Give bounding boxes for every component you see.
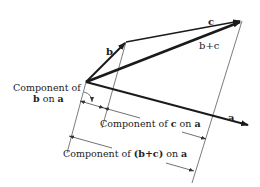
label-component-bc-prefix: Component of — [63, 148, 134, 159]
label-component-bc-vec: (b+c) — [134, 148, 163, 159]
label-component-of-b-line1: Component of — [13, 82, 82, 93]
dimension-line-component-c-start — [104, 108, 140, 118]
vector-projection-diagram: b c b+c a Component of b on a Component … — [0, 0, 260, 187]
label-component-b-on: on — [40, 93, 58, 104]
label-component-of-b-line2: b on a — [33, 93, 64, 104]
label-vector-b: b — [106, 46, 113, 57]
label-component-bc-a: a — [181, 148, 187, 159]
label-vector-b-plus-c: b+c — [199, 40, 220, 51]
vector-c — [126, 21, 240, 42]
leader-component-b — [84, 92, 92, 102]
label-component-c-prefix: Component of — [100, 118, 171, 129]
label-component-c-mid: on — [177, 118, 195, 129]
label-component-c-a: a — [194, 118, 200, 129]
dimension-line-component-b — [80, 101, 104, 108]
label-vector-a: a — [228, 112, 235, 123]
label-component-of-c: Component of c on a — [100, 118, 201, 129]
dimension-line-component-c-end — [182, 132, 206, 139]
dimension-line-component-bc-start — [69, 136, 112, 148]
label-component-of-bc: Component of (b+c) on a — [63, 148, 187, 159]
label-component-bc-mid: on — [163, 148, 181, 159]
dimension-line-component-bc-end — [166, 163, 194, 171]
label-vector-c: c — [208, 16, 214, 27]
label-component-b-a: a — [58, 93, 64, 104]
